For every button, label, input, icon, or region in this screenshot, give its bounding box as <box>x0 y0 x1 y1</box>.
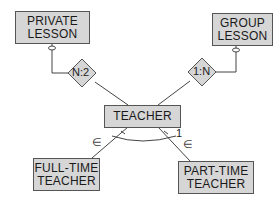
entity-label: LESSON <box>28 28 78 41</box>
entity-label: PRIVATE <box>27 15 78 28</box>
relationship-label-private: N:2 <box>72 66 89 78</box>
entity-label: LESSON <box>218 30 268 43</box>
entity-label: GROUP <box>220 17 265 30</box>
entity-label: TEACHER <box>187 178 246 191</box>
entity-label: TEACHER <box>37 175 96 188</box>
entity-label: TEACHER <box>113 110 172 123</box>
entity-label: FULL-TIME <box>35 162 99 175</box>
subtype-symbol-right: ∈ <box>183 138 193 151</box>
entity-group-lesson: GROUP LESSON <box>212 13 273 46</box>
entity-label: PART-TIME <box>184 165 249 178</box>
entity-full-time-teacher: FULL-TIME TEACHER <box>33 158 100 191</box>
subtype-symbol-left: ∈ <box>92 136 102 149</box>
subtype-cardinality: 1 <box>176 127 182 139</box>
relationship-label-group: 1:N <box>193 65 210 77</box>
entity-part-time-teacher: PART-TIME TEACHER <box>178 161 254 194</box>
entity-private-lesson: PRIVATE LESSON <box>15 11 90 44</box>
entity-teacher: TEACHER <box>104 105 181 128</box>
